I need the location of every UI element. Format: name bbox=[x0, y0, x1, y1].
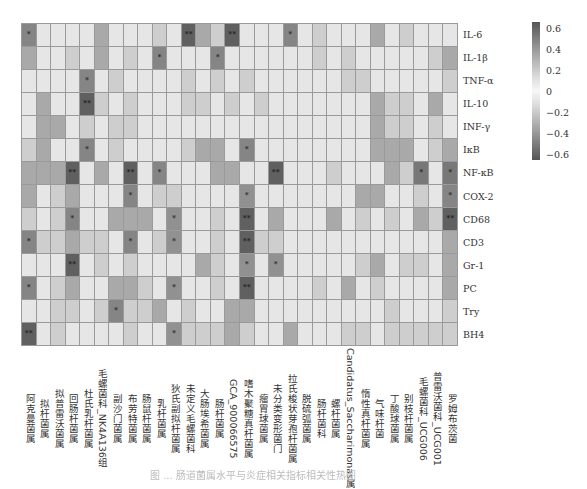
heatmap-cell bbox=[153, 300, 168, 323]
heatmap-cell bbox=[371, 70, 386, 93]
heatmap-cell bbox=[182, 277, 197, 300]
heatmap-cell bbox=[211, 24, 226, 47]
heatmap-cell bbox=[313, 47, 328, 70]
heatmap-cell bbox=[327, 277, 342, 300]
heatmap-cell bbox=[385, 24, 400, 47]
heatmap-cell bbox=[371, 24, 386, 47]
heatmap-cell bbox=[95, 231, 110, 254]
heatmap-cell bbox=[80, 208, 95, 231]
heatmap-cell bbox=[400, 323, 415, 346]
heatmap-cell bbox=[124, 208, 139, 231]
heatmap-cell bbox=[109, 70, 124, 93]
heatmap-cell bbox=[298, 208, 313, 231]
heatmap-cell bbox=[298, 93, 313, 116]
heatmap-cell bbox=[327, 254, 342, 277]
heatmap-cell bbox=[211, 116, 226, 139]
heatmap-cell bbox=[400, 162, 415, 185]
heatmap-cell: ** bbox=[80, 93, 95, 116]
colorbar-tick-label: −0.6 bbox=[546, 149, 569, 160]
column-label: 副沙门菌属 bbox=[108, 348, 123, 489]
heatmap-cell bbox=[298, 139, 313, 162]
heatmap-cell bbox=[196, 70, 211, 93]
heatmap-cell bbox=[400, 277, 415, 300]
heatmap-cell bbox=[196, 116, 211, 139]
heatmap-cell bbox=[51, 24, 66, 47]
heatmap-cell bbox=[429, 139, 444, 162]
heatmap-cell bbox=[66, 323, 81, 346]
heatmap-cell bbox=[414, 93, 429, 116]
row-label: INF-γ bbox=[463, 115, 533, 138]
row-label: IL-6 bbox=[463, 23, 533, 46]
heatmap-cell bbox=[255, 208, 270, 231]
heatmap-cell: * bbox=[124, 185, 139, 208]
heatmap-cell: * bbox=[124, 231, 139, 254]
heatmap-cell bbox=[429, 300, 444, 323]
heatmap-cell bbox=[356, 254, 371, 277]
heatmap-cell bbox=[37, 116, 52, 139]
row-labels: IL-6IL-1βTNF-αIL-10INF-γIκBNF-κBCOX-2CD6… bbox=[463, 23, 533, 346]
heatmap-cell bbox=[429, 93, 444, 116]
heatmap-cell bbox=[414, 231, 429, 254]
row-label: Try bbox=[463, 300, 533, 323]
heatmap-cell bbox=[51, 231, 66, 254]
heatmap-cell bbox=[429, 162, 444, 185]
heatmap-cell: * bbox=[167, 323, 182, 346]
heatmap-cell bbox=[80, 116, 95, 139]
heatmap-cell bbox=[269, 24, 284, 47]
heatmap-cell bbox=[327, 185, 342, 208]
row-label: PC bbox=[463, 277, 533, 300]
heatmap-cell bbox=[138, 70, 153, 93]
heatmap-cell bbox=[298, 162, 313, 185]
heatmap-cell bbox=[327, 231, 342, 254]
heatmap-cell bbox=[66, 300, 81, 323]
heatmap-cell: ** bbox=[22, 323, 37, 346]
heatmap-cell bbox=[138, 185, 153, 208]
heatmap-cell bbox=[255, 139, 270, 162]
heatmap-cell bbox=[429, 47, 444, 70]
heatmap-cell bbox=[109, 323, 124, 346]
column-label: 拟杆菌属 bbox=[36, 348, 51, 489]
heatmap-cell bbox=[313, 208, 328, 231]
heatmap-cell bbox=[37, 277, 52, 300]
heatmap-cell bbox=[313, 24, 328, 47]
heatmap-cell bbox=[284, 139, 299, 162]
heatmap-cell bbox=[240, 300, 255, 323]
heatmap-cell bbox=[182, 300, 197, 323]
heatmap-cell bbox=[196, 323, 211, 346]
heatmap-cell bbox=[342, 185, 357, 208]
heatmap-cell bbox=[414, 185, 429, 208]
heatmap-cell bbox=[342, 70, 357, 93]
heatmap-cell bbox=[225, 116, 240, 139]
column-label: 杜氏乳杆菌属 bbox=[79, 348, 94, 489]
heatmap-cell bbox=[37, 300, 52, 323]
heatmap-cell bbox=[414, 116, 429, 139]
heatmap-cell bbox=[400, 24, 415, 47]
heatmap-cell bbox=[37, 70, 52, 93]
heatmap-cell bbox=[342, 139, 357, 162]
heatmap-cell bbox=[327, 139, 342, 162]
heatmap-cell bbox=[255, 24, 270, 47]
heatmap-cell bbox=[255, 277, 270, 300]
heatmap-cell bbox=[95, 93, 110, 116]
heatmap-cell bbox=[240, 162, 255, 185]
heatmap-cell bbox=[196, 277, 211, 300]
heatmap-cell bbox=[327, 47, 342, 70]
heatmap-cell bbox=[255, 300, 270, 323]
heatmap-cell: * bbox=[153, 162, 168, 185]
heatmap-cell bbox=[225, 47, 240, 70]
heatmap-cell bbox=[37, 323, 52, 346]
heatmap-cell bbox=[342, 47, 357, 70]
heatmap-cell bbox=[327, 93, 342, 116]
heatmap-cell bbox=[414, 254, 429, 277]
heatmap-cell bbox=[196, 162, 211, 185]
heatmap-cell bbox=[51, 323, 66, 346]
row-label: BH4 bbox=[463, 323, 533, 346]
heatmap-cell bbox=[167, 24, 182, 47]
heatmap-cell bbox=[182, 139, 197, 162]
heatmap-cell bbox=[51, 70, 66, 93]
heatmap-cell bbox=[385, 93, 400, 116]
heatmap-cell bbox=[95, 116, 110, 139]
heatmap-cell bbox=[443, 254, 458, 277]
heatmap-cell bbox=[284, 47, 299, 70]
heatmap-cell bbox=[284, 300, 299, 323]
